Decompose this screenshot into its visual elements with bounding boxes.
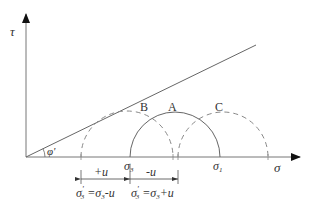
mohr-circle-b bbox=[81, 111, 173, 157]
circle-b-label: B bbox=[140, 100, 148, 114]
equation-left: σ'3 =σ3-u bbox=[76, 185, 115, 201]
equation-right: σ'3 =σ3+u bbox=[131, 185, 174, 201]
sigma1-label: σ1 bbox=[213, 159, 222, 174]
friction-angle-arc bbox=[43, 149, 45, 157]
sigma3-label: σ3 bbox=[124, 159, 134, 174]
circle-a-label: A bbox=[168, 100, 177, 114]
shift-right-label: -u bbox=[146, 165, 156, 179]
mohr-circle-diagram: τ σ φ' B A C σ3 σ1 +u -u σ'3 =σ3-u σ'3 =… bbox=[0, 0, 313, 211]
mohr-circle-c bbox=[178, 112, 268, 157]
circle-c-label: C bbox=[215, 100, 223, 114]
shift-left-label: +u bbox=[94, 165, 108, 179]
sigma-axis-label: σ bbox=[274, 160, 281, 175]
friction-angle-label: φ' bbox=[47, 145, 56, 157]
tau-axis-label: τ bbox=[10, 24, 16, 39]
mohr-circle-a bbox=[130, 112, 220, 157]
